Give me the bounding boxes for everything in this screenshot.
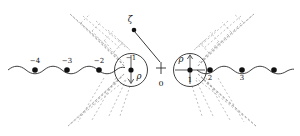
lattice-dot-minus-four xyxy=(32,67,38,73)
label-two: 2 xyxy=(208,74,212,82)
label-minus-four: −4 xyxy=(30,57,41,65)
lattice-dot-minus-two xyxy=(96,67,102,73)
lattice-dot-plus-one xyxy=(187,67,192,72)
lattice-dot-three xyxy=(239,67,245,73)
diagram-canvas: 0 ζ −1 ρ ρ 1 xyxy=(0,0,300,136)
circle-plus-one-bottom-label: 1 xyxy=(188,76,192,84)
left-lower-fan xyxy=(68,74,130,126)
zeta-connector xyxy=(135,32,161,63)
label-minus-two: −2 xyxy=(94,57,104,65)
zeta-label: ζ xyxy=(128,14,134,24)
figure-root: 0 ζ −1 ρ ρ 1 xyxy=(0,0,300,136)
circle-minus-one-rho-label: ρ xyxy=(136,71,142,81)
lattice-dot-minus-one xyxy=(128,67,133,72)
circle-plus-one-rho-label: ρ xyxy=(178,54,184,64)
label-minus-three: −3 xyxy=(62,57,72,65)
circle-minus-one: −1 ρ xyxy=(115,54,148,87)
circle-minus-one-top-label: −1 xyxy=(126,54,136,62)
lattice-points-right: 2 3 xyxy=(207,67,277,82)
lattice-points-left: −4 −3 −2 xyxy=(30,57,104,73)
origin-label: 0 xyxy=(158,79,163,88)
label-three: 3 xyxy=(240,74,244,82)
origin-marker: 0 xyxy=(156,62,166,88)
circle-plus-one: ρ 1 xyxy=(174,54,207,87)
lattice-dot-two xyxy=(207,67,213,73)
lattice-dot-minus-three xyxy=(64,67,70,73)
zeta-dot xyxy=(132,28,137,33)
lattice-dot-four xyxy=(271,67,277,73)
